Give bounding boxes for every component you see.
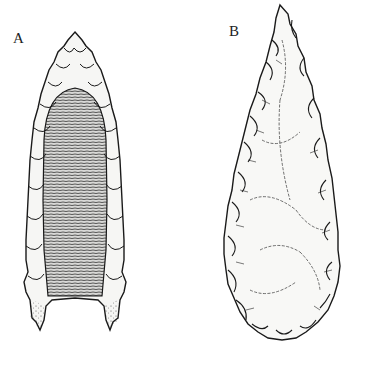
projectile-point-a bbox=[24, 32, 126, 330]
projectile-point-b bbox=[224, 5, 340, 340]
illustration-canvas bbox=[0, 0, 367, 365]
